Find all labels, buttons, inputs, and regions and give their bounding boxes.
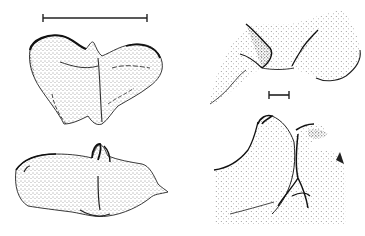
scale-bar-large	[43, 14, 147, 22]
drawing-top-left	[29, 35, 162, 124]
drawing-bottom-right	[214, 115, 346, 224]
drawing-top-right	[210, 10, 360, 104]
scale-bar-small	[269, 91, 289, 99]
figure-canvas	[0, 0, 365, 236]
drawing-bottom-left	[16, 144, 169, 217]
